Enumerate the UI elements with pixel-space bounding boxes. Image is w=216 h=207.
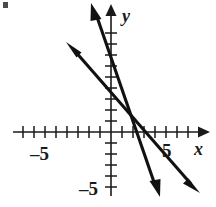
- steep-line-arrow-down-icon: [150, 179, 161, 197]
- y-axis-name: y: [120, 6, 131, 26]
- graph-figure: –5 5 –5 x y: [0, 0, 216, 207]
- steep-line-arrow-up-icon: [91, 3, 102, 21]
- x-axis-label-pos-five: 5: [162, 140, 172, 161]
- y-axis: [105, 4, 117, 196]
- y-axis-arrow-up-icon: [106, 4, 117, 16]
- shallow-line-arrow-downright-icon: [183, 179, 200, 194]
- steep-line: [91, 3, 161, 197]
- x-axis-label-neg-five: –5: [29, 143, 49, 164]
- x-axis-name: x: [193, 139, 203, 159]
- x-axis-arrow-right-icon: [198, 127, 210, 138]
- coordinate-plane: –5 5 –5 x y: [0, 0, 216, 207]
- steep-line-segment: [96, 14, 155, 185]
- y-axis-label-neg-five: –5: [78, 178, 98, 199]
